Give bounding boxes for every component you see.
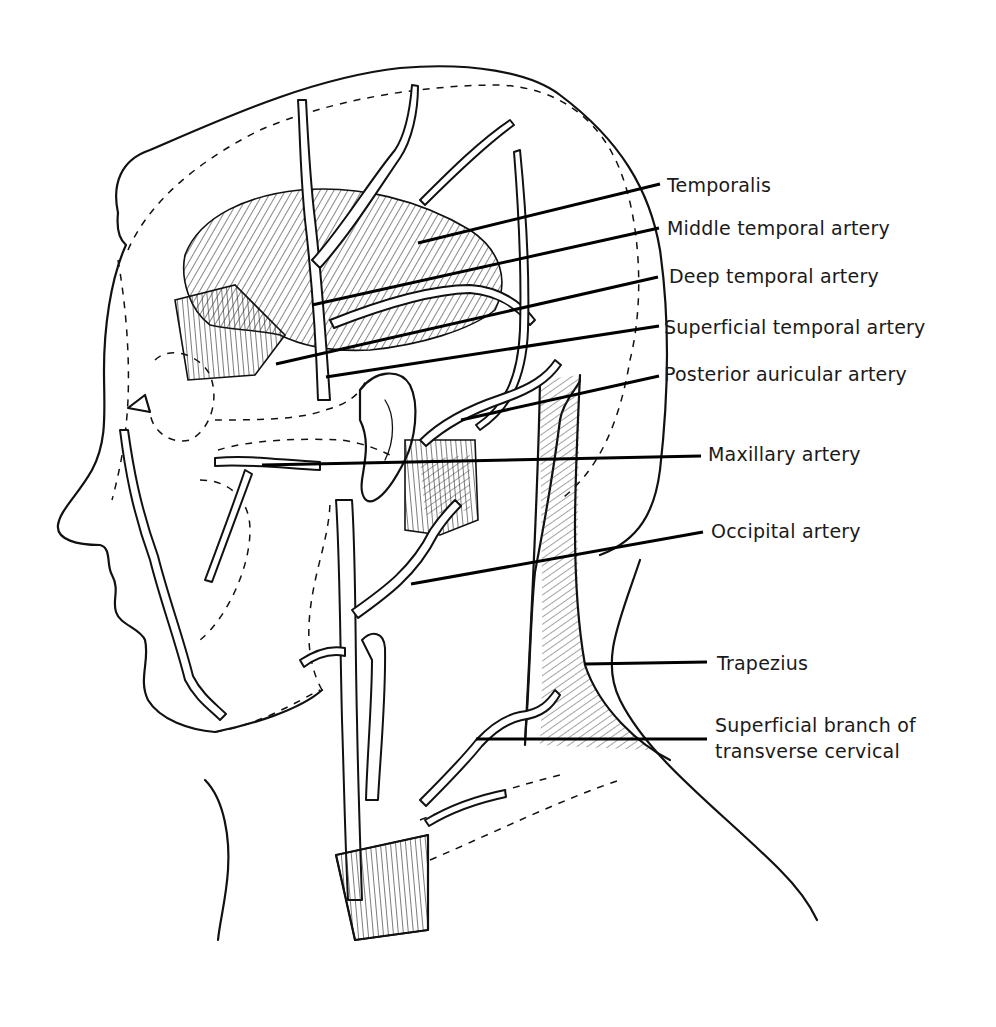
- label-superficial-branch-line2: transverse cervical: [715, 738, 900, 764]
- label-maxillary-artery: Maxillary artery: [708, 441, 861, 467]
- label-trapezius: Trapezius: [717, 650, 808, 676]
- label-temporalis: Temporalis: [667, 172, 771, 198]
- label-middle-temporal-artery: Middle temporal artery: [667, 215, 890, 241]
- label-posterior-auricular-artery: Posterior auricular artery: [664, 361, 907, 387]
- leader-line-trapezius: [585, 662, 707, 664]
- leader-line-maxillary-artery: [262, 456, 701, 465]
- anatomy-illustration: [0, 0, 996, 1027]
- label-superficial-branch-line1: Superficial branch of: [715, 712, 916, 738]
- label-occipital-artery: Occipital artery: [711, 518, 861, 544]
- leader-line-temporalis: [418, 184, 660, 243]
- eye: [128, 395, 150, 412]
- label-superficial-temporal-artery: Superficial temporal artery: [664, 314, 925, 340]
- temporalis-muscle: [175, 189, 502, 380]
- label-deep-temporal-artery: Deep temporal artery: [669, 263, 879, 289]
